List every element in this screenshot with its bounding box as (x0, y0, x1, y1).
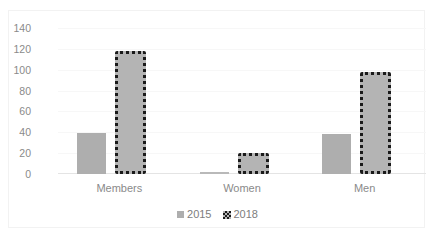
bar-women-2018[interactable] (238, 153, 269, 174)
legend-label-2018: 2018 (234, 209, 258, 220)
legend-item-2018[interactable]: 2018 (223, 209, 258, 220)
bar-members-2015[interactable] (77, 133, 106, 174)
chart-container: 140 120 100 80 60 40 20 0 (8, 10, 425, 228)
y-tick-label: 0 (0, 169, 31, 180)
y-tick-label: 20 (0, 148, 31, 159)
bar-group-members (58, 28, 181, 174)
y-tick-label: 60 (0, 106, 31, 117)
bar-members-2018[interactable] (115, 51, 146, 174)
legend-swatch-2015-icon (177, 211, 184, 218)
legend-item-2015[interactable]: 2015 (177, 209, 211, 220)
bar-men-2015[interactable] (322, 134, 351, 174)
chart-legend: 2015 2018 (9, 209, 426, 220)
bar-men-2018[interactable] (360, 72, 391, 174)
plot-area (58, 28, 426, 174)
bar-group-women (181, 28, 304, 174)
legend-swatch-2018-icon (223, 211, 231, 219)
x-tick-label-women: Women (181, 183, 304, 194)
y-tick-label: 100 (0, 64, 31, 75)
y-tick-label: 40 (0, 127, 31, 138)
y-tick-label: 140 (0, 23, 31, 34)
x-tick-label-members: Members (58, 183, 181, 194)
y-tick-label: 80 (0, 85, 31, 96)
x-tick-label-men: Men (303, 183, 426, 194)
legend-label-2015: 2015 (187, 209, 211, 220)
y-tick-label: 120 (0, 44, 31, 55)
bar-group-men (303, 28, 426, 174)
bar-women-2015[interactable] (200, 172, 229, 174)
